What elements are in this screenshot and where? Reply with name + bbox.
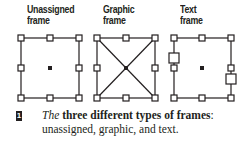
figure-number-badge: 1 (16, 111, 22, 121)
unassigned-frame-icon (18, 35, 82, 101)
text-frame-icon (169, 35, 236, 101)
caption-colon: : (211, 109, 214, 121)
caption-line-1: The three different types of frames: (42, 108, 214, 122)
in-port-icon (169, 53, 179, 63)
out-port-icon (226, 74, 236, 84)
caption-line-2: unassigned, graphic, and text. (42, 122, 179, 136)
graphic-frame-icon (94, 35, 158, 101)
caption-italic: The (42, 109, 59, 121)
caption-bold: three different types of frames (59, 109, 210, 121)
